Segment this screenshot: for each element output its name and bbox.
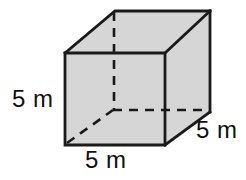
dimension-label-depth: 5 m [196,118,238,142]
cube-diagram: 5 m 5 m 5 m [0,0,246,180]
dimension-label-height: 5 m [12,87,54,111]
dimension-label-width: 5 m [85,148,127,172]
